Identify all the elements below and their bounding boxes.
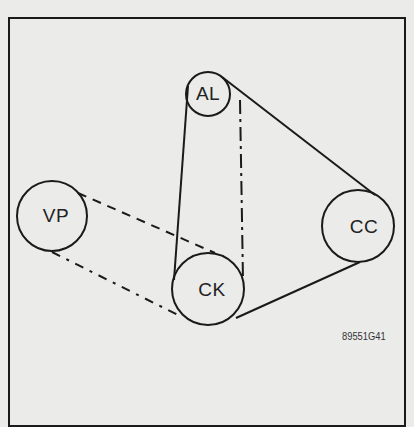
- belt-solid-cc-ck: [236, 262, 360, 318]
- pulley-label-ck: CK: [198, 279, 225, 301]
- pulley-label-cc: CC: [350, 216, 378, 238]
- pulley-label-al: AL: [196, 83, 220, 105]
- belt-dashed-vp-ck-bottom: [52, 252, 180, 316]
- pulley-label-vp: VP: [43, 205, 69, 227]
- belt-solid-al-ck-left: [174, 86, 188, 280]
- figure-id: 89551G41: [342, 330, 386, 342]
- belt-dashdot-al-ck: [240, 100, 243, 280]
- belt-dashed-vp-ck-top: [78, 193, 215, 253]
- belt-solid-al-cc: [222, 77, 375, 195]
